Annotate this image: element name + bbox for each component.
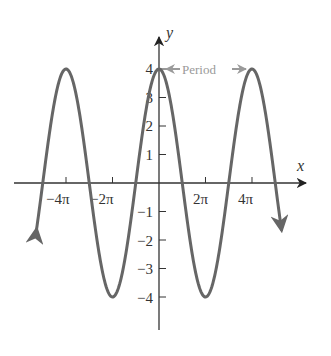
y-tick-label: −4	[137, 290, 153, 306]
y-tick-label: −2	[137, 233, 153, 249]
y-tick-label: −3	[137, 261, 153, 277]
x-tick-label: 4π	[238, 191, 254, 207]
cosine-graph: x y −4π −2π 2π 4π 4 3 2 1 −1 −2 −3 −4 Pe…	[0, 0, 331, 356]
x-tick-label: −4π	[46, 191, 70, 207]
y-tick-label: 4	[146, 61, 154, 77]
y-tick-label: 2	[146, 118, 154, 134]
period-label: Period	[182, 62, 216, 77]
x-tick-label: −2π	[90, 191, 114, 207]
y-axis-label: y	[164, 24, 174, 42]
period-annotation: Period	[166, 62, 246, 77]
x-axis-label: x	[296, 157, 304, 174]
y-tick-label: 1	[146, 147, 154, 163]
y-tick-label: −1	[137, 204, 153, 220]
x-tick-label: 2π	[193, 191, 209, 207]
